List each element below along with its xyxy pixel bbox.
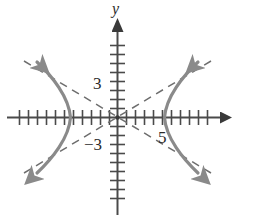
x-tick-label-5: 5	[158, 129, 167, 146]
hyperbola-graph-figure: y 3 −3 5	[0, 0, 253, 217]
y-tick-label-negative-3: −3	[84, 136, 102, 153]
y-tick-label-3: 3	[93, 75, 102, 92]
hyperbola-right-branch-upper	[165, 62, 199, 118]
hyperbola-left-branch-upper	[37, 62, 71, 118]
hyperbola-left-branch-lower	[37, 118, 71, 174]
hyperbola-right-branch-lower	[165, 118, 199, 174]
coordinate-plane-svg	[0, 0, 253, 217]
origin-marker	[115, 115, 119, 119]
y-axis-label: y	[112, 1, 119, 17]
